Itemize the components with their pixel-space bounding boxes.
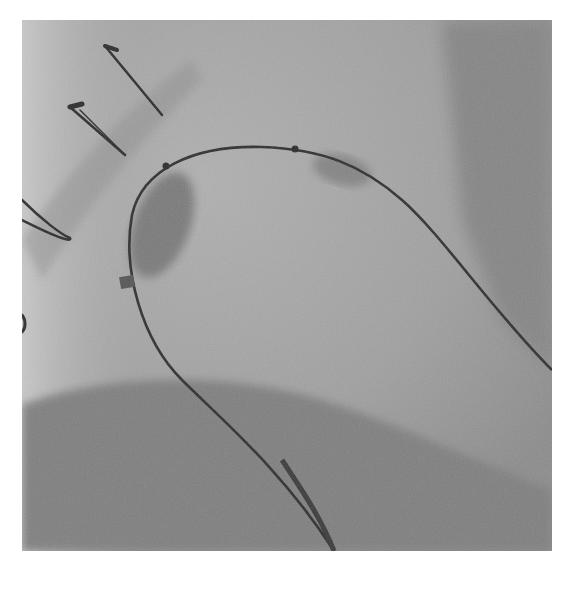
fluoroscopy-image (22, 20, 552, 551)
noise-overlay (22, 20, 552, 551)
fluoroscopy-scene (22, 20, 552, 551)
